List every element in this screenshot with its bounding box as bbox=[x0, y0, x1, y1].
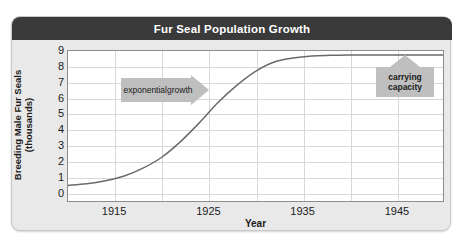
y-axis-ticks: 9 8 7 6 5 4 3 2 1 0 bbox=[48, 50, 64, 202]
y-axis-title-text: Breeding Male Fur Seals (thousands) bbox=[12, 70, 34, 180]
y-axis-title-line1: Breeding Male Fur Seals bbox=[12, 70, 23, 180]
x-tick-label: 1945 bbox=[377, 205, 417, 217]
plot-area: exponential growth carrying capacity bbox=[68, 51, 443, 201]
annotation-carrying-capacity: carrying capacity bbox=[376, 55, 434, 97]
annotation-line2: capacity bbox=[388, 82, 422, 92]
y-tick-label: 2 bbox=[48, 156, 64, 166]
y-tick-label: 5 bbox=[48, 108, 64, 118]
y-tick-label: 9 bbox=[48, 45, 64, 55]
x-axis-title: Year bbox=[67, 218, 444, 229]
annotation-line2: growth bbox=[167, 85, 193, 95]
x-axis-ticks: 1915 1925 1935 1945 bbox=[67, 205, 444, 219]
chart-figure: Fur Seal Population Growth Breeding Male… bbox=[11, 16, 451, 231]
chart-title-bar: Fur Seal Population Growth bbox=[12, 17, 452, 40]
annotation-exponential-growth: exponential growth bbox=[121, 75, 209, 105]
y-tick-label: 3 bbox=[48, 140, 64, 150]
annotation-text: carrying capacity bbox=[388, 72, 422, 92]
annotation-exponential-growth-label: exponential growth bbox=[121, 75, 195, 105]
y-axis-title: Breeding Male Fur Seals (thousands) bbox=[10, 49, 36, 201]
annotation-carrying-capacity-label: carrying capacity bbox=[376, 67, 434, 97]
plot-frame: exponential growth carrying capacity bbox=[67, 50, 444, 202]
x-tick-label: 1935 bbox=[283, 205, 323, 217]
y-tick-label: 6 bbox=[48, 93, 64, 103]
y-tick-label: 7 bbox=[48, 77, 64, 87]
annotation-line1: carrying bbox=[388, 72, 422, 82]
page-title: Fur Seal Population Growth bbox=[154, 23, 311, 35]
y-tick-label: 1 bbox=[48, 172, 64, 182]
y-axis-title-line2: (thousands) bbox=[23, 98, 34, 152]
x-tick-label: 1915 bbox=[94, 205, 134, 217]
y-tick-label: 0 bbox=[48, 188, 64, 198]
x-tick-label: 1925 bbox=[188, 205, 228, 217]
y-tick-label: 8 bbox=[48, 61, 64, 71]
y-tick-label: 4 bbox=[48, 124, 64, 134]
annotation-line1: exponential bbox=[124, 85, 167, 95]
